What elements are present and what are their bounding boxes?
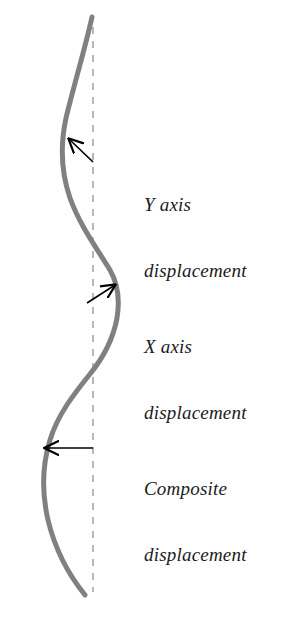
displacement-diagram: Y axis displacement X axis displacement … [0,0,304,643]
arrow-x-axis-displacement [87,285,115,303]
label-x-axis-line1: X axis [144,336,247,358]
label-composite-line1: Composite [144,478,247,500]
deformed-shape-curve [44,17,119,595]
label-y-axis-line2: displacement [144,260,247,282]
label-y-axis-line1: Y axis [144,194,247,216]
arrow-y-axis-displacement [69,139,93,162]
label-composite-displacement: Composite displacement [144,434,247,610]
label-x-axis-line2: displacement [144,402,247,424]
label-composite-line2: displacement [144,544,247,566]
